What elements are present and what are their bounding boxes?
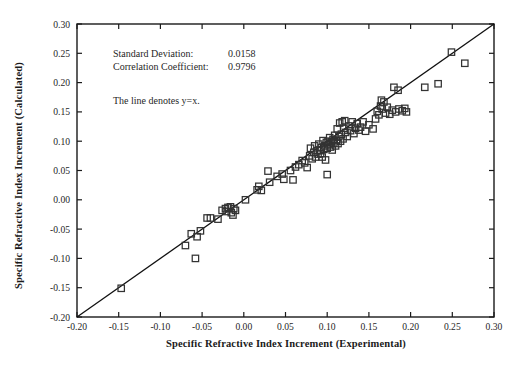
- corr-coef-label: Correlation Coefficient:: [113, 61, 209, 72]
- y-tick-label: -0.05: [50, 224, 70, 235]
- x-tick-label: 0.20: [402, 321, 419, 332]
- data-point-marker: [192, 255, 198, 261]
- x-tick-label: -0.15: [109, 321, 129, 332]
- x-tick-label: -0.05: [192, 321, 212, 332]
- y-tick-label: -0.20: [50, 312, 70, 323]
- data-point-marker: [370, 126, 376, 132]
- data-point-marker: [422, 84, 428, 90]
- x-tick-label: 0.10: [319, 321, 336, 332]
- data-point-marker: [462, 60, 468, 66]
- data-point-marker: [324, 171, 330, 177]
- y-tick-label: 0.20: [53, 77, 70, 88]
- std-dev-value: 0.0158: [228, 48, 256, 59]
- data-point-marker: [290, 177, 296, 183]
- y-tick-label: 0.05: [53, 165, 70, 176]
- y-tick-label: 0.30: [53, 19, 70, 30]
- x-tick-label: -0.10: [150, 321, 170, 332]
- x-tick-label: 0.25: [444, 321, 461, 332]
- std-dev-label: Standard Deviation:: [113, 48, 193, 59]
- y-tick-label: -0.15: [50, 282, 70, 293]
- data-point-marker: [435, 81, 441, 87]
- data-point-markers: [118, 49, 468, 292]
- data-point-marker: [265, 168, 271, 174]
- y-tick-label: 0.25: [53, 48, 70, 59]
- x-tick-label: -0.20: [67, 321, 87, 332]
- data-point-marker: [230, 212, 236, 218]
- data-point-marker: [304, 164, 310, 170]
- y-tick-label: 0.00: [53, 194, 70, 205]
- y-tick-labels: -0.20-0.15-0.10-0.050.000.050.100.150.20…: [50, 19, 70, 323]
- x-tick-label: 0.05: [277, 321, 294, 332]
- reference-line-note: The line denotes y=x.: [113, 95, 200, 106]
- y-axis-title: Specific Refractive Index Increment (Cal…: [13, 29, 24, 323]
- x-tick-labels: -0.20-0.15-0.10-0.050.000.050.100.150.20…: [67, 321, 503, 332]
- data-point-marker: [182, 242, 188, 248]
- x-tick-label: 0.00: [235, 321, 252, 332]
- scatter-plot-figure: -0.20-0.15-0.10-0.050.000.050.100.150.20…: [0, 0, 521, 374]
- y-tick-label: 0.10: [53, 136, 70, 147]
- y-tick-label: 0.15: [53, 106, 70, 117]
- corr-coef-value: 0.9796: [228, 61, 256, 72]
- plot-canvas: -0.20-0.15-0.10-0.050.000.050.100.150.20…: [0, 0, 521, 374]
- x-axis-title: Specific Refractive Index Increment (Exp…: [77, 338, 495, 349]
- y-tick-label: -0.10: [50, 253, 70, 264]
- x-tick-label: 0.15: [361, 321, 378, 332]
- x-tick-label: 0.30: [486, 321, 503, 332]
